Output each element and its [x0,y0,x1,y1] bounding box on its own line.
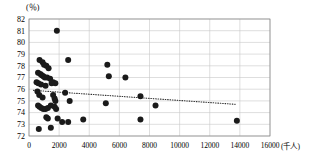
data-point [103,100,109,106]
data-point [80,117,86,123]
data-point [62,90,68,96]
data-point [43,83,49,89]
data-point [59,119,65,125]
y-tick-label: 77 [17,73,25,82]
data-points [34,28,240,132]
y-tick-label: 72 [17,132,25,141]
data-point [153,103,159,109]
y-tick-label: 80 [17,38,25,47]
data-point [137,93,143,99]
y-tick-label: 82 [17,15,25,24]
y-axis-ticks: 7273747576777879808182 [17,15,25,141]
data-point [54,28,60,34]
x-tick-label: 6000 [112,141,127,150]
data-point [65,57,71,63]
data-point [67,98,73,104]
x-tick-label: 16000 [261,141,280,150]
y-tick-label: 75 [17,97,25,106]
data-point [137,117,143,123]
y-tick-label: 73 [17,120,25,129]
data-point [45,115,51,121]
x-tick-label: 14000 [231,141,250,150]
x-tick-label: 8000 [142,141,157,150]
y-tick-label: 79 [17,50,25,59]
data-point [65,119,71,125]
x-tick-label: 0 [27,141,31,150]
data-point [36,126,42,132]
scatter-chart: (％) (千人) 7273747576777879808182 02000400… [0,0,312,160]
data-point [49,80,55,86]
data-point [104,62,110,68]
data-point [122,75,128,81]
grid-lines [29,19,270,136]
x-tick-label: 10000 [170,141,189,150]
y-tick-label: 76 [17,85,25,94]
data-point [46,65,52,71]
y-tick-label: 74 [17,108,25,117]
data-point [40,94,46,100]
x-tick-label: 12000 [200,141,219,150]
x-axis-ticks: 0200040006000800010000120001400016000 [27,141,280,150]
data-point [52,98,58,104]
x-tick-label: 4000 [82,141,97,150]
data-point [106,73,112,79]
x-axis-unit-label: (千人) [281,140,300,151]
y-tick-label: 81 [17,27,25,36]
data-point [48,125,54,131]
y-tick-label: 78 [17,62,25,71]
plot-area: 7273747576777879808182 02000400060008000… [0,0,312,160]
x-tick-label: 2000 [52,141,67,150]
y-axis-unit-label: (％) [26,1,39,12]
data-point [234,118,240,124]
data-point [53,106,59,112]
